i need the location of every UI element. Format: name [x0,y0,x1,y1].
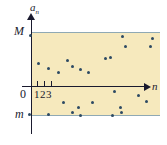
vertical-axis-label-subscript: n [36,8,40,16]
data-point [47,113,50,116]
origin-label: 0 [20,89,26,100]
data-point [109,56,112,59]
lower-bound-line [31,115,160,116]
data-point [124,45,127,48]
data-point [79,68,82,71]
x-tick-1 [37,81,38,86]
data-point [66,59,69,62]
horizontal-axis-arrowhead-icon [144,83,151,91]
horizontal-axis-label: n [152,81,158,92]
data-point [120,111,123,114]
data-point [104,57,107,60]
data-point [79,114,82,117]
bounded-region-band [31,32,160,116]
data-point [57,71,60,74]
data-point [28,113,31,116]
data-point [77,106,80,109]
data-point [121,35,124,38]
upper-bound-label: M [14,26,24,37]
x-tick-labels: 123 [34,89,52,100]
data-point [71,65,74,68]
data-point [71,111,74,114]
x-tick-3 [51,81,52,86]
data-point [91,101,94,104]
data-point [29,34,32,37]
data-point [145,100,148,103]
data-point [37,62,40,65]
data-point [47,67,50,70]
data-point [137,94,140,97]
lower-bound-label: m [15,109,24,120]
data-point [151,37,154,40]
data-point [62,101,65,104]
upper-bound-line [31,32,160,33]
horizontal-axis [22,86,145,87]
x-tick-2 [44,81,45,86]
sequence-bounded-figure: an n M m 0 123 [0,0,167,145]
data-point [149,45,152,48]
data-point [119,106,122,109]
data-point [87,71,90,74]
vertical-axis-label: an [30,2,39,18]
data-point [113,90,116,93]
data-point [111,114,114,117]
